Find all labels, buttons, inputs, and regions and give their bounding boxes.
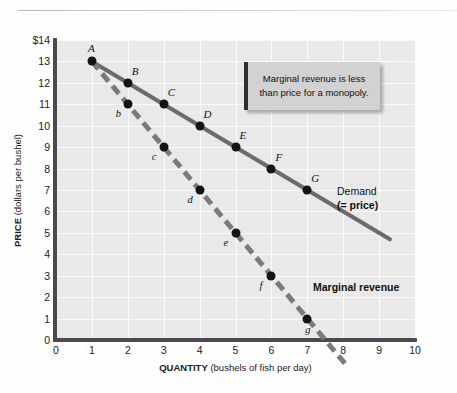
data-point-marker — [195, 121, 204, 130]
data-point-marker — [267, 164, 276, 173]
data-point-marker — [123, 100, 132, 109]
data-point-marker — [87, 57, 96, 66]
data-point-label: E — [240, 129, 247, 141]
data-point-label: g — [305, 324, 310, 335]
marginal-revenue-curve-label: Marginal revenue — [313, 280, 399, 294]
data-point-marker — [195, 186, 204, 195]
demand-label-line2: (= price) — [337, 198, 378, 212]
data-point-marker — [267, 271, 276, 280]
data-point-marker — [303, 314, 312, 323]
demand-curve-label: Demand (= price) — [337, 184, 378, 212]
data-point-marker — [303, 186, 312, 195]
callout-annotation: Marginal revenue is less than price for … — [244, 62, 380, 110]
data-point-label: d — [188, 194, 193, 205]
data-point-marker — [123, 78, 132, 87]
data-point-label: A — [88, 42, 95, 54]
data-point-label: f — [259, 280, 262, 291]
data-point-marker — [231, 143, 240, 152]
series-lines — [0, 0, 457, 393]
data-point-label: C — [168, 86, 175, 98]
data-point-label: c — [152, 151, 157, 162]
data-point-label: b — [116, 108, 121, 119]
data-point-marker — [159, 143, 168, 152]
data-point-label: F — [275, 151, 282, 163]
callout-text: Marginal revenue is less than price for … — [254, 72, 374, 100]
data-point-label: G — [311, 172, 319, 184]
data-point-marker — [231, 228, 240, 237]
data-point-label: B — [132, 65, 139, 77]
data-point-label: e — [224, 237, 229, 248]
data-point-label: D — [204, 108, 212, 120]
data-point-marker — [159, 100, 168, 109]
demand-label-line1: Demand — [337, 184, 378, 198]
chart-figure: $14131211109876543210 012345678910 QUANT… — [0, 0, 457, 393]
